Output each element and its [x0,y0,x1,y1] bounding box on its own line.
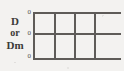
y-tick-label-top: 0 [22,8,31,16]
vline-3 [74,12,76,60]
figure-container: D or Dm 0 0 0 [0,0,124,71]
vline-4 [94,12,96,60]
y-tick-label-middle: 0 [22,29,31,37]
bottom-axis-line [33,58,121,60]
middle-axis-line [33,33,121,35]
y-axis-label-line-1: D [2,15,28,27]
vline-1 [33,12,35,60]
vline-2 [54,12,56,60]
top-axis-line [33,12,121,14]
plot-grid [33,12,121,60]
y-tick-label-bottom: 0 [22,52,31,60]
y-axis-label-line-3: Dm [2,39,28,51]
